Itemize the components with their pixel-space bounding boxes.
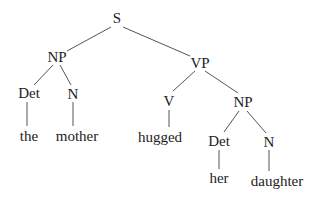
edge-vp-v bbox=[173, 71, 195, 91]
word-the: the bbox=[20, 129, 38, 144]
node-np-subject: NP bbox=[47, 50, 66, 65]
node-n-object: N bbox=[264, 135, 275, 150]
node-det-object: Det bbox=[208, 134, 230, 149]
node-s: S bbox=[113, 11, 121, 26]
node-np-object: NP bbox=[233, 95, 252, 110]
node-n-subject: N bbox=[68, 87, 79, 102]
edge-np-det bbox=[34, 65, 53, 85]
word-mother: mother bbox=[56, 129, 99, 144]
syntax-tree-diagram: S NP VP Det N the mother V NP hugged Det… bbox=[0, 0, 325, 202]
edge-s-np bbox=[67, 27, 111, 51]
word-hugged: hugged bbox=[138, 130, 182, 145]
edge-vp-np bbox=[205, 71, 238, 93]
edge-np-n bbox=[60, 65, 71, 85]
edge-np-det2 bbox=[224, 111, 239, 132]
word-her: her bbox=[209, 171, 228, 186]
node-det-subject: Det bbox=[18, 86, 40, 101]
edge-s-vp bbox=[123, 27, 190, 56]
edge-np-n2 bbox=[247, 111, 266, 133]
word-daughter: daughter bbox=[251, 174, 303, 189]
node-vp: VP bbox=[190, 56, 209, 71]
node-v: V bbox=[164, 94, 175, 109]
